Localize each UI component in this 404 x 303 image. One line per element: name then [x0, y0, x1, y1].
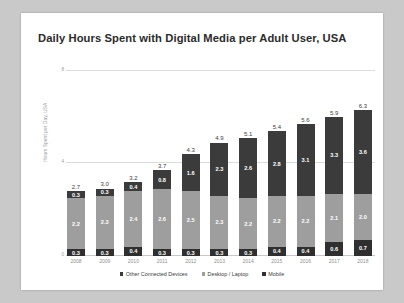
bar-total-label: 3.7	[158, 163, 166, 169]
bar-segment-desktop[interactable]: 2.2	[297, 196, 315, 247]
bar-segment-label: 2.8	[273, 161, 281, 167]
bar-segment-mobile[interactable]: 0.3	[96, 249, 114, 256]
bar-segment-other[interactable]: 2.3	[210, 143, 228, 196]
bar-segment-other[interactable]: 2.6	[239, 138, 257, 198]
x-axis-label-2012: 2012	[182, 258, 200, 264]
bar-segment-label: 0.6	[330, 246, 338, 252]
bar-segment-desktop[interactable]: 2.3	[96, 196, 114, 249]
bar-segment-label: 2.2	[72, 221, 80, 227]
bar-segment-other[interactable]: 0.8	[153, 170, 171, 189]
bar-segment-desktop[interactable]: 2.6	[153, 189, 171, 249]
bar-total-label: 4.3	[187, 147, 195, 153]
bar-segment-label: 0.3	[101, 250, 109, 256]
bar-stack[interactable]: 3.32.10.6	[325, 117, 343, 256]
bar-column-2011: 3.70.82.60.3	[153, 163, 171, 256]
bar-segment-mobile[interactable]: 0.4	[297, 247, 315, 256]
bar-column-2018: 6.33.62.00.7	[354, 103, 372, 256]
bar-total-label: 6.3	[359, 103, 367, 109]
legend-swatch-icon	[120, 272, 124, 276]
bar-stack[interactable]: 0.32.20.3	[67, 191, 85, 256]
page-title: Daily Hours Spent with Digital Media per…	[38, 32, 347, 44]
bar-column-2010: 3.20.42.40.4	[124, 175, 142, 257]
bar-segment-label: 2.6	[244, 165, 252, 171]
bar-segment-desktop[interactable]: 2.2	[67, 198, 85, 249]
bar-segment-desktop[interactable]: 2.2	[239, 198, 257, 249]
bar-segment-label: 2.4	[129, 216, 137, 222]
bar-segment-mobile[interactable]: 0.3	[153, 249, 171, 256]
bar-segment-label: 2.3	[216, 166, 224, 172]
bar-segment-desktop[interactable]: 2.5	[182, 191, 200, 249]
bar-segment-label: 0.4	[302, 248, 310, 254]
legend-label: Desktop / Laptop	[208, 271, 249, 277]
bar-segment-mobile[interactable]: 0.3	[67, 249, 85, 256]
bar-column-2015: 5.42.82.20.4	[268, 124, 286, 256]
bar-total-label: 5.9	[330, 110, 338, 116]
x-axis-label-2008: 2008	[67, 258, 85, 264]
bar-column-2008: 2.70.32.20.3	[67, 184, 85, 256]
bar-stack[interactable]: 0.82.60.3	[153, 170, 171, 256]
bar-stack[interactable]: 1.62.50.3	[182, 154, 200, 256]
bar-segment-label: 2.3	[101, 219, 109, 225]
bar-segment-label: 0.3	[101, 189, 109, 195]
bar-stack[interactable]: 0.42.40.4	[124, 182, 142, 256]
bar-segment-mobile[interactable]: 0.3	[182, 249, 200, 256]
bar-segment-label: 2.6	[158, 216, 166, 222]
bar-segment-mobile[interactable]: 0.7	[354, 240, 372, 256]
legend-item-1[interactable]: Desktop / Laptop	[202, 271, 249, 277]
slide-canvas: Daily Hours Spent with Digital Media per…	[21, 13, 383, 290]
bar-segment-desktop[interactable]: 2.3	[210, 196, 228, 249]
bar-stack[interactable]: 2.82.20.4	[268, 131, 286, 256]
legend-swatch-icon	[202, 272, 206, 276]
bar-stack[interactable]: 3.12.20.4	[297, 124, 315, 256]
bar-segment-label: 1.6	[187, 170, 195, 176]
bar-segment-label: 2.5	[187, 217, 195, 223]
bar-total-label: 5.4	[273, 124, 281, 130]
x-axis-label-2014: 2014	[239, 258, 257, 264]
bar-segment-label: 0.3	[244, 250, 252, 256]
bar-segment-desktop[interactable]: 2.2	[268, 196, 286, 247]
bar-segment-mobile[interactable]: 0.4	[268, 247, 286, 256]
bar-segment-label: 3.6	[359, 149, 367, 155]
bar-stack[interactable]: 2.62.20.3	[239, 138, 257, 256]
bar-segment-desktop[interactable]: 2.4	[124, 191, 142, 247]
bar-segment-label: 0.8	[158, 177, 166, 183]
bar-stack[interactable]: 2.32.30.3	[210, 143, 228, 256]
legend-swatch-icon	[262, 272, 266, 276]
bar-segment-other[interactable]: 3.1	[297, 124, 315, 196]
bar-segment-desktop[interactable]: 2.1	[325, 194, 343, 243]
bar-column-2016: 5.63.12.20.4	[297, 117, 315, 256]
bar-segment-other[interactable]: 3.3	[325, 117, 343, 193]
legend-item-2[interactable]: Mobile	[262, 271, 284, 277]
bar-segment-other[interactable]: 2.8	[268, 131, 286, 196]
bar-segment-label: 0.4	[129, 184, 137, 190]
bar-segment-label: 2.2	[302, 218, 310, 224]
bar-segment-mobile[interactable]: 0.6	[325, 242, 343, 256]
bar-segment-mobile[interactable]: 0.3	[210, 249, 228, 256]
y-tick-8: 8	[54, 67, 64, 72]
bar-segment-mobile[interactable]: 0.3	[239, 249, 257, 256]
bar-total-label: 3.0	[101, 181, 109, 187]
bar-segment-label: 0.4	[129, 248, 137, 254]
bar-segment-other[interactable]: 1.6	[182, 154, 200, 191]
bar-segment-label: 3.3	[330, 152, 338, 158]
x-axis-label-2009: 2009	[96, 258, 114, 264]
bar-segment-label: 0.4	[273, 248, 281, 254]
bar-column-2012: 4.31.62.50.3	[182, 147, 200, 256]
bar-segment-label: 0.3	[158, 250, 166, 256]
bar-segment-desktop[interactable]: 2.0	[354, 194, 372, 240]
bar-segment-other[interactable]: 0.3	[67, 191, 85, 198]
bar-segment-label: 2.3	[216, 219, 224, 225]
bar-total-label: 5.6	[301, 117, 309, 123]
bar-stack[interactable]: 0.32.30.3	[96, 189, 114, 256]
bar-stack[interactable]: 3.62.00.7	[354, 110, 372, 256]
bar-segment-other[interactable]: 3.6	[354, 110, 372, 193]
bar-segment-label: 2.2	[244, 221, 252, 227]
bar-column-2009: 3.00.32.30.3	[96, 181, 114, 256]
legend-item-0[interactable]: Other Connected Devices	[120, 271, 188, 277]
bar-segment-mobile[interactable]: 0.4	[124, 247, 142, 256]
bar-segment-other[interactable]: 0.3	[96, 189, 114, 196]
bar-total-label: 3.2	[129, 175, 137, 181]
x-axis-label-2018: 2018	[354, 258, 372, 264]
bar-segment-other[interactable]: 0.4	[124, 182, 142, 191]
bar-total-label: 2.7	[72, 184, 80, 190]
